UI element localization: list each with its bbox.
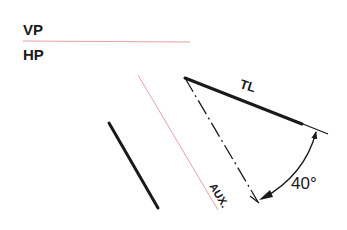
xy-reference-line — [23, 41, 190, 42]
construction-line — [185, 78, 258, 202]
arrowhead-bottom-icon — [259, 190, 273, 200]
angle-label: 40° — [291, 174, 317, 193]
diagram-canvas: VP HP AUX. TL 40° — [0, 0, 347, 230]
auxiliary-reference-line — [138, 75, 218, 210]
auxiliary-label: AUX. — [207, 181, 231, 210]
projection-drawing: VP HP AUX. TL 40° — [0, 0, 347, 230]
true-length-label: TL — [238, 76, 258, 95]
vp-label: VP — [23, 21, 43, 38]
projected-line — [109, 123, 158, 208]
extension-line-top — [298, 122, 328, 134]
hp-label: HP — [23, 46, 44, 63]
